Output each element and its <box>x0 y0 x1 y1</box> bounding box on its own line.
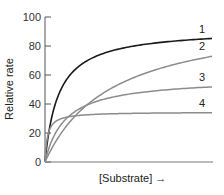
curve-label-3: 3 <box>199 71 205 83</box>
x-axis-title: [Substrate] → <box>99 172 166 184</box>
y-axis-title: Relative rate <box>3 58 15 120</box>
curve-2 <box>45 56 212 162</box>
curve-label-2: 2 <box>199 40 205 52</box>
curves <box>45 38 212 162</box>
enzyme-kinetics-chart: 020406080100 1234 Relative rate [Substra… <box>0 0 224 195</box>
y-tick-label: 80 <box>29 40 41 52</box>
y-tick-label: 60 <box>29 69 41 81</box>
y-tick-label: 100 <box>23 11 41 23</box>
curve-label-1: 1 <box>199 23 205 35</box>
curve-1 <box>45 38 212 162</box>
curve-3 <box>45 87 212 162</box>
curve-label-4: 4 <box>199 97 205 109</box>
y-tick-label: 40 <box>29 98 41 110</box>
curve-4 <box>45 113 212 162</box>
y-tick-label: 0 <box>35 156 41 168</box>
y-tick-label: 20 <box>29 127 41 139</box>
curve-labels: 1234 <box>199 23 205 109</box>
